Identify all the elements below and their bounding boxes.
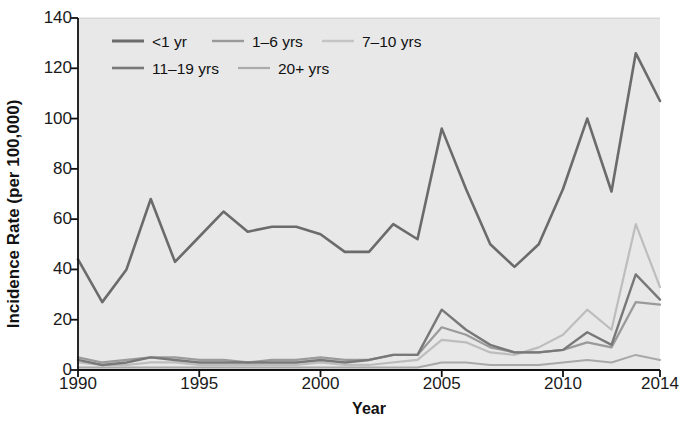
legend-label: 20+ yrs [278,60,330,77]
y-axis-label: Incidence Rate (per 100,000) [0,0,30,428]
y-tick-label: 140 [34,8,72,28]
x-tick-label: 2000 [302,374,340,394]
x-tick-label: 1995 [180,374,218,394]
legend-label: 11–19 yrs [152,60,219,77]
chart-figure: Incidence Rate (per 100,000) 14012010080… [0,0,683,428]
y-tick-label: 80 [34,159,72,179]
x-tick-label: 2014 [641,374,679,394]
x-tick-label: 1990 [59,374,97,394]
x-tick-label: 2005 [423,374,461,394]
y-tick-label: 40 [34,259,72,279]
y-tick-label: 120 [34,58,72,78]
y-tick-label: 100 [34,109,72,129]
y-tick-label: 60 [34,209,72,229]
x-tick-label: 2010 [544,374,582,394]
legend-label: 7–10 yrs [362,33,422,50]
x-axis-label: Year [78,400,660,418]
legend-label: <1 yr [152,33,187,50]
y-tick-label: 20 [34,310,72,330]
y-axis-tick-labels: 140120100806040200 [28,0,72,428]
legend-label: 1–6 yrs [252,33,303,50]
plot-area: <1 yr1–6 yrs7–10 yrs11–19 yrs20+ yrs [0,0,683,428]
